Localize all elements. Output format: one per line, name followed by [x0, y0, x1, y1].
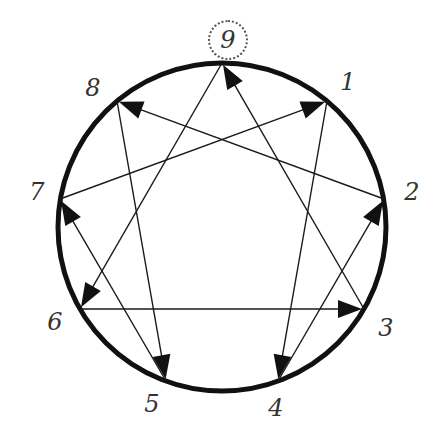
point-label-2: 2: [404, 180, 419, 204]
arrow-line-8-to-5: [117, 101, 164, 369]
dotted-highlight-ring: [208, 20, 248, 60]
point-label-4: 4: [268, 396, 283, 420]
point-label-6: 6: [47, 310, 62, 334]
arrowhead-icon: [223, 65, 243, 90]
point-label-1: 1: [340, 70, 355, 94]
arrowhead-icon: [61, 201, 81, 226]
outer-circle: [58, 63, 386, 391]
enneagram-diagram: [0, 0, 448, 443]
point-label-8: 8: [85, 76, 100, 100]
arrow-line-9-to-6: [86, 63, 222, 299]
arrowhead-icon: [299, 102, 325, 119]
point-label-3: 3: [378, 316, 393, 340]
arrowhead-icon: [363, 201, 383, 226]
point-label-5: 5: [144, 392, 159, 416]
arrowhead-icon: [81, 282, 101, 307]
arrow-line-1-to-4: [280, 101, 327, 369]
arrow-line-3-to-9: [228, 73, 364, 309]
point-label-7: 7: [29, 180, 44, 204]
arrowhead-icon: [119, 102, 145, 119]
